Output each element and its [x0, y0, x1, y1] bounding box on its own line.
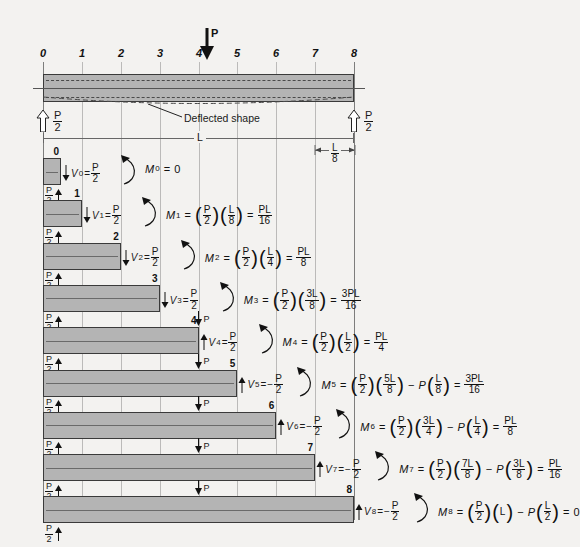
applied-load-label: P [211, 27, 218, 39]
paren-close-2: ) [475, 461, 482, 477]
cut-station-number-3: 3 [152, 273, 158, 284]
shear-annotation-4: V4=P2 [200, 332, 238, 353]
m-m1-den-7: 8 [512, 470, 525, 480]
moment-equation-3: M3 = (P2)(3L8) = 3PL16 [244, 289, 361, 310]
row-load-down-arrow [194, 438, 203, 453]
shear-arrow-down [161, 292, 169, 308]
shear-subscript-5: 5 [255, 380, 259, 389]
bar-centerline [46, 341, 196, 342]
moment-result-equals-6: = [490, 421, 503, 433]
paren-close-2: ) [436, 419, 443, 435]
shear-annotation-5: V5=−P2 [238, 374, 282, 395]
shear-den-4: 2 [228, 343, 237, 353]
paren-open-1: ( [234, 250, 241, 266]
m-t1-den-3: 2 [280, 301, 289, 311]
shear-equals-4: = [222, 337, 228, 348]
paren-close-3: ) [443, 377, 450, 393]
row-load-label-7: P [204, 441, 210, 451]
row-load-label-8: P [204, 483, 210, 493]
shear-arrow-up [355, 504, 363, 520]
shear-symbol-3: V [170, 295, 177, 306]
moment-subscript-7: 7 [409, 465, 413, 474]
paren-close-1: ) [251, 250, 258, 266]
moment-subscript-6: 6 [370, 422, 374, 431]
free-body-bar-3 [43, 285, 160, 312]
row-load-label-6: P [204, 398, 210, 408]
shear-equals-1: = [105, 210, 111, 221]
span-dimension-tick-left [43, 133, 44, 143]
shear-annotation-0: V0=P2 [62, 163, 100, 184]
moment-result-den-2: 8 [296, 258, 310, 268]
bar-centerline [46, 510, 351, 511]
shear-symbol-8: V [364, 506, 371, 517]
moment-result-equals-5: = [451, 379, 464, 391]
paren-open-2: ( [492, 504, 499, 520]
shear-arrow-up [238, 377, 246, 393]
moment-equation-7: M7 = (P2)(7L8) − P(3L8) = PL16 [399, 459, 562, 480]
m-t2-den-3: 8 [305, 301, 318, 311]
moment-equals-8: = [454, 506, 467, 518]
shear-num-3: P [190, 289, 199, 300]
shear-annotation-6: V6=−P2 [277, 416, 321, 437]
deflected-shape-label: Deflected shape [184, 112, 260, 124]
row-load-down-arrow [194, 354, 203, 369]
shear-subscript-6: 6 [294, 422, 298, 431]
moment-subscript-8: 8 [448, 507, 452, 516]
shear-den-0: 2 [91, 174, 100, 184]
m-m1-den-6: 4 [473, 427, 481, 437]
free-body-bar-7 [43, 454, 315, 481]
shear-equals-3: = [183, 295, 189, 306]
moment-curve-arrow-0 [119, 154, 141, 192]
paren-open-1: ( [351, 377, 358, 393]
moment-result-equals-7: = [534, 463, 547, 475]
m-t2-den-5: 8 [383, 385, 396, 395]
m-m1-den-8: 2 [544, 512, 552, 522]
segment-length-label: L 8 [329, 143, 341, 164]
bar-centerline [46, 425, 273, 426]
moment-result-equals-3: = [327, 294, 340, 306]
moment-curve-arrow-4 [257, 323, 279, 361]
shear-symbol-4: V [209, 337, 216, 348]
m-t2-den-6: 4 [422, 427, 435, 437]
shear-subscript-8: 8 [372, 507, 376, 516]
row-load-down-arrow [194, 396, 203, 411]
station-label-6: 6 [273, 47, 279, 59]
moment-curve-arrow-2 [179, 239, 201, 277]
paren-open-1: ( [273, 292, 280, 308]
moment-symbol-4: M [283, 336, 292, 348]
moment-minus-7: − [483, 463, 496, 475]
deflected-shape-curve [43, 96, 354, 110]
shear-annotation-3: V3=P2 [161, 289, 199, 310]
row-load-down-arrow [194, 311, 203, 326]
paren-close-2: ) [506, 504, 513, 520]
moment-subscript-3: 3 [254, 296, 258, 305]
moment-symbol-2: M [205, 252, 214, 264]
cut-station-number-7: 7 [308, 442, 314, 453]
shear-sign-7: − [345, 464, 351, 475]
shear-equals-7: = [338, 464, 344, 475]
moment-equation-6: M6 = (P2)(3L4) − P(L4) = PL8 [360, 416, 517, 437]
station-label-8: 8 [351, 47, 357, 59]
paren-close-2: ) [353, 334, 360, 350]
beam-centerline [33, 88, 365, 89]
paren-open-3: ( [536, 504, 543, 520]
free-body-bar-1 [43, 200, 82, 227]
shear-den-6: 2 [313, 427, 322, 437]
paren-close-1: ) [329, 334, 336, 350]
moment-subscript-2: 2 [215, 253, 219, 262]
shear-arrow-up [316, 461, 324, 477]
moment-symbol-1: M [166, 209, 175, 221]
moment-result-den-4: 4 [374, 343, 388, 353]
row-reaction-8: P2 [45, 524, 63, 543]
moment-result-den-6: 8 [503, 427, 517, 437]
row-applied-load-5: P [194, 354, 210, 369]
station-label-7: 7 [312, 47, 318, 59]
m-t1-den-8: 2 [475, 512, 484, 522]
shear-symbol-0: V [71, 168, 78, 179]
moment-symbol-0: M [145, 163, 154, 175]
cut-station-number-5: 5 [230, 358, 236, 369]
moment-result-den-3: 16 [341, 301, 361, 311]
row-applied-load-4: P [194, 311, 210, 326]
shear-equals-2: = [144, 252, 150, 263]
moment-result-den-5: 16 [464, 385, 484, 395]
